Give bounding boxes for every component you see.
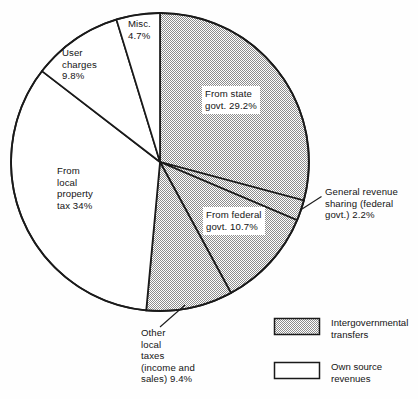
slice-label-from-state-govt: From state govt. 29.2%	[202, 86, 260, 114]
legend	[275, 319, 320, 379]
slice-label-from-federal-govt: From federal govt. 10.7%	[203, 207, 265, 235]
slice-label-from-local-property-tax: From local property tax 34%	[57, 165, 93, 211]
legend-swatch-own-source-revenues	[275, 363, 320, 379]
legend-label-own-source-revenues: Own source revenues	[331, 361, 382, 385]
legend-label-intergovernmental-transfers: Intergovernmental transfers	[331, 317, 408, 341]
callout-label-general-revenue-sharing: General revenue sharing (federal govt.) …	[325, 186, 398, 221]
slice-label-user-charges: User charges 9.8%	[62, 47, 97, 82]
legend-swatch-intergovernmental-transfers	[275, 319, 320, 335]
slice-label-misc: Misc. 4.7%	[128, 18, 151, 41]
callout-label-other-local-taxes: Other local taxes (income and sales) 9.4…	[141, 327, 195, 385]
pie-chart-figure: Misc. 4.7% User charges 9.8% From local …	[0, 0, 418, 399]
pie-slices	[11, 13, 309, 311]
